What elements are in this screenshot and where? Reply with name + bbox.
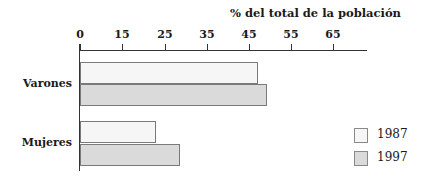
- bar-varones-1997: [80, 84, 267, 106]
- legend-swatch: [354, 128, 368, 143]
- x-tick-label: 65: [318, 28, 348, 41]
- x-tick-label: 25: [150, 28, 180, 41]
- bar-mujeres-1997: [80, 144, 180, 166]
- x-tick-label: 55: [276, 28, 306, 41]
- x-axis-line: [80, 50, 367, 51]
- bar-mujeres-1987: [80, 121, 156, 143]
- chart-title: % del total de la población: [230, 6, 386, 20]
- x-tick-label: 45: [234, 28, 264, 41]
- legend-label: 1987: [377, 127, 408, 141]
- x-tick-label: 15: [107, 28, 137, 41]
- x-tick-label: 35: [192, 28, 222, 41]
- category-label: Mujeres: [0, 136, 72, 149]
- bar-varones-1987: [80, 62, 258, 84]
- x-tick-label: 0: [65, 28, 95, 41]
- category-label: Varones: [0, 77, 72, 90]
- legend-label: 1997: [377, 150, 408, 164]
- legend-swatch: [354, 151, 368, 166]
